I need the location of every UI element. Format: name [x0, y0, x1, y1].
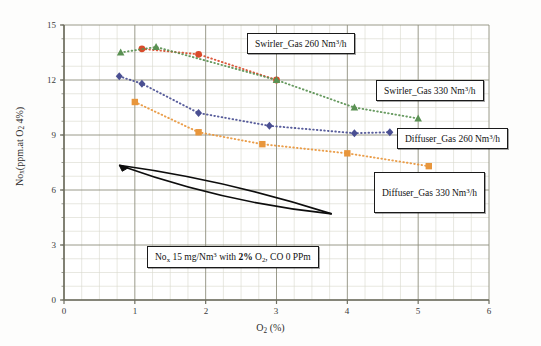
x-tick-label: 2 [195, 306, 217, 316]
x-axis-title-text: O [256, 322, 263, 333]
x-axis-title: O2 (%) [0, 322, 541, 335]
note-p2: 15 mg/Nm [170, 252, 213, 262]
y-axis-title-sub1: x [18, 170, 26, 174]
legend-callout-swirler-gas-330[interactable]: Swirler_Gas 330 Nm3/h [376, 80, 484, 101]
callout-post: /h [468, 86, 475, 96]
y-axis-title-pre: No [14, 174, 25, 186]
legend-callout-diffuser-gas-330[interactable]: Diffuser_Gas 330 Nm3/h [374, 172, 485, 213]
y-axis-title-sub2: 2 [18, 126, 26, 130]
y-axis-title-post: 4%) [14, 107, 25, 126]
note-p3: with [217, 252, 239, 262]
callout-text: Swirler_Gas 260 Nm [255, 39, 336, 49]
callout-post: /h [470, 188, 477, 198]
x-axis-title-post: (%) [267, 322, 285, 333]
note-callout-nox-conditions[interactable]: Nox 15 mg/Nm3 with 2% O2, CO 0 PPm [147, 246, 319, 268]
callout-text: Diffuser_Gas 260 Nm [405, 134, 489, 144]
x-tick-label: 4 [336, 306, 358, 316]
y-tick-label: 3 [34, 240, 56, 250]
note-p5: O [253, 252, 262, 262]
x-tick-label: 6 [478, 306, 500, 316]
x-tick-label: 0 [53, 306, 75, 316]
callout-text: Swirler_Gas 330 Nm [384, 86, 465, 96]
y-tick-label: 9 [34, 130, 56, 140]
y-tick-label: 0 [34, 295, 56, 305]
y-axis-title-mid: (ppm.at O [14, 130, 25, 171]
x-tick-label: 5 [407, 306, 429, 316]
y-tick-label: 15 [34, 20, 56, 30]
y-tick-label: 6 [34, 185, 56, 195]
note-p1: No [155, 252, 167, 262]
callout-post: /h [493, 134, 500, 144]
y-axis-title: Nox(ppm.at O2 4%) [14, 56, 27, 236]
callout-post: /h [339, 39, 346, 49]
legend-callout-diffuser-gas-260[interactable]: Diffuser_Gas 260 Nm3/h [397, 128, 508, 149]
note-p4: 2% [238, 252, 252, 262]
callout-text: Diffuser_Gas 330 Nm [382, 188, 466, 198]
note-p6: , CO 0 PPm [265, 252, 310, 262]
x-tick-label: 1 [124, 306, 146, 316]
x-tick-label: 3 [265, 306, 287, 316]
y-tick-label: 12 [34, 75, 56, 85]
legend-callout-swirler-gas-260[interactable]: Swirler_Gas 260 Nm3/h [247, 33, 355, 54]
chart-container: 15 12 9 6 3 0 0 1 2 3 4 5 6 O2 (%) Nox(p… [0, 0, 541, 346]
